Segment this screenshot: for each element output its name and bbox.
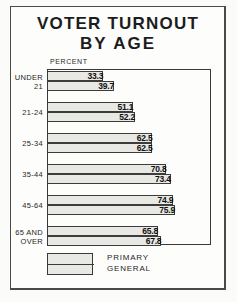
title-line-secondary: BY AGE <box>14 34 222 54</box>
bar-value-label: 33.3 <box>47 71 105 81</box>
category-label-5: 65 AND OVER <box>0 228 45 246</box>
category-label-1: 21-24 <box>0 108 45 117</box>
chart-page: VOTER TURNOUT BY AGE PERCENT 33.339.751.… <box>0 0 237 302</box>
legend-swatch <box>47 253 93 275</box>
bar-row: 52.2 <box>47 112 211 122</box>
bars-layer: 33.339.751.152.262.562.570.873.474.975.9… <box>47 69 211 245</box>
bar-row: 33.3 <box>47 71 211 81</box>
bar-row: 70.8 <box>47 164 211 174</box>
title-line-primary: VOTER TURNOUT <box>14 14 222 34</box>
bar-row: 67.8 <box>47 236 211 246</box>
bar-row: 74.9 <box>47 195 211 205</box>
legend-swatch-divider <box>48 264 94 265</box>
bar-value-label: 73.4 <box>47 174 173 184</box>
bar-value-label: 65.8 <box>47 226 160 236</box>
bar-value-label: 74.9 <box>47 195 175 205</box>
legend-label-primary: PRIMARY <box>107 253 149 262</box>
chart-title: VOTER TURNOUT BY AGE <box>14 14 222 54</box>
bar-row: 73.4 <box>47 174 211 184</box>
bar-row: 51.1 <box>47 102 211 112</box>
axis-caption-percent: PERCENT <box>50 58 88 65</box>
bar-row: 75.9 <box>47 205 211 215</box>
bar-row: 62.5 <box>47 133 211 143</box>
bar-row: 39.7 <box>47 81 211 91</box>
bar-value-label: 75.9 <box>47 205 177 215</box>
bar-value-label: 62.5 <box>47 143 154 153</box>
category-label-3: 35-44 <box>0 170 45 179</box>
category-label-4: 45-64 <box>0 201 45 210</box>
bar-value-label: 62.5 <box>47 133 154 143</box>
legend-label-general: GENERAL <box>107 264 151 273</box>
bar-row: 62.5 <box>47 143 211 153</box>
bar-value-label: 51.1 <box>47 102 135 112</box>
bar-value-label: 39.7 <box>47 81 116 91</box>
bar-value-label: 52.2 <box>47 112 137 122</box>
category-label-2: 25-34 <box>0 139 45 148</box>
bar-value-label: 67.8 <box>47 236 163 246</box>
bar-value-label: 70.8 <box>47 164 168 174</box>
bar-row: 65.8 <box>47 226 211 236</box>
category-label-0: UNDER 21 <box>0 73 45 91</box>
